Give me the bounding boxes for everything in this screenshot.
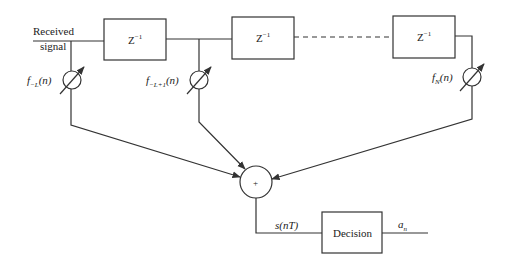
tap-label-1: f−L(n)	[27, 74, 52, 89]
delay-label-1: Z−1	[128, 33, 143, 46]
input-label-1: Received	[33, 25, 74, 37]
sum-output-label: s(nT)	[275, 219, 299, 232]
delay-label-2: Z−1	[256, 31, 271, 44]
decision-label: Decision	[333, 227, 373, 239]
tap-label-2: f−L+1(n)	[146, 74, 179, 89]
summer-symbol: +	[253, 178, 258, 188]
tap-label-N: fN(n)	[432, 71, 453, 86]
input-label-2: signal	[40, 40, 66, 52]
delay-label-3: Z−1	[417, 30, 432, 43]
output-label: an	[398, 218, 408, 233]
equalizer-diagram: Received signal Z−1 Z−1 Z−1 f−L(n) f−L+1…	[0, 0, 507, 265]
